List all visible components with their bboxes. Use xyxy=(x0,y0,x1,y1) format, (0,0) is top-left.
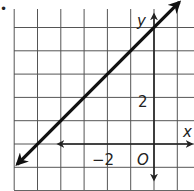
y-tick-label: 2 xyxy=(138,93,148,111)
x-tick-label: −2 xyxy=(92,151,114,169)
x-axis-label: x xyxy=(182,123,192,141)
data-line xyxy=(17,2,179,164)
origin-label: O xyxy=(137,151,149,169)
y-axis-label: y xyxy=(136,12,147,30)
coordinate-graph: y x O −2 2 xyxy=(0,0,194,191)
